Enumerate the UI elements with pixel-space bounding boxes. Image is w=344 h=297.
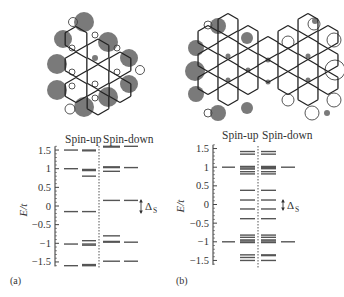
spin-up-density-icon [241,102,253,114]
figure: Spin-up Spin-down E/t 1.510.50−0.5−1−1.5… [0,0,344,297]
molecule-a-triangular-flake [47,12,145,117]
y-axis-label: E/t [174,199,186,214]
y-tick-label: −1.5 [190,255,209,266]
column-header-spin-up: Spin-up [65,133,102,146]
spin-up-density-icon [120,49,138,67]
gap-annotation: Δ S [139,199,157,215]
y-tick-label: 0 [46,201,51,212]
spin-up-density-icon [74,97,94,117]
spin-up-density-icon [74,12,94,32]
molecule-b-bowtie-flake [185,14,344,122]
spin-up-density-icon [120,75,138,93]
gap-annotation: Δ S [281,199,299,214]
gap-subscript: S [295,205,299,214]
spin-up-density-icon [98,87,118,107]
spin-up-density-icon [324,110,330,116]
spin-up-density-icon [188,86,204,102]
column-header-spin-down: Spin-down [262,129,313,142]
spin-up-density-icon [47,80,67,100]
energy-levels [64,146,138,265]
spin-down-density-icon [92,32,98,38]
panel-label-a: (a) [10,275,21,287]
spin-down-density-icon [136,66,145,75]
spin-down-density-icon [305,106,319,120]
column-header-spin-up: Spin-up [222,129,259,142]
gap-label: Δ [287,199,294,211]
y-axis: 1.510.50−0.5−1−1.5 [32,145,59,268]
spin-down-density-icon [327,93,341,107]
spin-down-density-icon [69,83,75,89]
spin-down-density-icon [92,95,98,101]
y-tick-label: 1.5 [196,143,209,154]
energy-level-diagram-a: Spin-up Spin-down E/t 1.510.50−0.5−1−1.5… [10,133,157,287]
gap-label: Δ [145,200,152,212]
y-tick-label: −1 [198,236,209,247]
spin-up-density-icon [241,32,253,44]
spin-up-density-icon [188,40,204,56]
y-axis: 1.510.50−0.5−1−1.5 [190,143,217,266]
spin-down-density-icon [65,104,75,114]
panel-label-b: (b) [176,275,188,287]
column-header-spin-down: Spin-down [103,133,154,146]
y-tick-label: −1 [40,238,51,249]
y-tick-label: −1.5 [32,256,51,267]
spin-up-density-icon [92,55,98,61]
energy-level-diagram-b: Spin-up Spin-down E/t 1.510.50−0.5−1−1.5… [174,129,313,287]
spin-down-density-icon [325,60,344,80]
spin-up-density-icon [47,54,67,74]
y-tick-label: 0 [204,199,209,210]
y-tick-label: 0.5 [196,180,209,191]
gap-subscript: S [153,206,157,215]
spin-up-density-icon [185,61,205,81]
spin-up-density-icon [98,32,118,52]
y-tick-label: −0.5 [32,219,51,230]
spin-up-density-icon [54,30,72,48]
y-tick-label: 0.5 [38,182,51,193]
y-tick-label: 1 [46,163,51,174]
y-tick-label: 1 [204,162,209,173]
spin-down-density-icon [282,94,294,106]
y-tick-label: −0.5 [190,218,209,229]
y-axis-label: E/t [17,203,29,218]
y-tick-label: 1.5 [38,145,51,156]
